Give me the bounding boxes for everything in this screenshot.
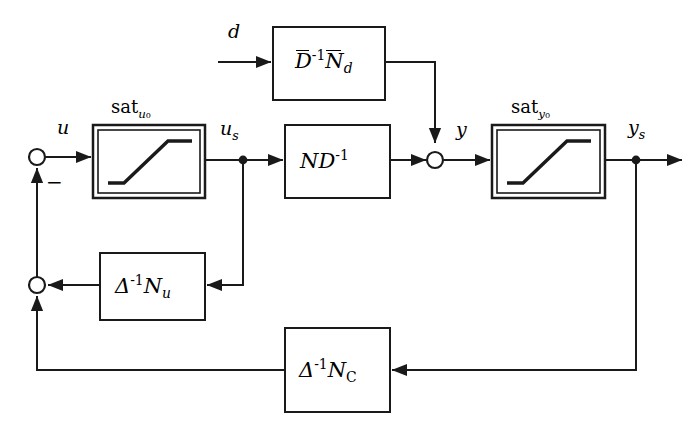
plant-block [285, 125, 390, 198]
diagram-vector-layer [0, 0, 698, 427]
branch-point-us [239, 156, 248, 165]
summing-junction-output [427, 152, 443, 168]
controller-nc-block [285, 328, 390, 412]
block-diagram-canvas: ND-1 D-1Nd Δ-1Nu Δ-1NC satu0 saty0 u us … [0, 0, 698, 427]
input-saturation-block [93, 125, 205, 198]
summing-junction-feedback [29, 277, 45, 293]
summing-junction-input [29, 149, 45, 165]
disturbance-model-block [273, 27, 385, 100]
branch-point-ys [632, 156, 641, 165]
output-saturation-block [492, 125, 605, 198]
edge-disturbance-to-sum3 [385, 62, 435, 143]
anti-windup-nu-block [100, 253, 205, 320]
edge-us-to-nu [207, 160, 243, 285]
